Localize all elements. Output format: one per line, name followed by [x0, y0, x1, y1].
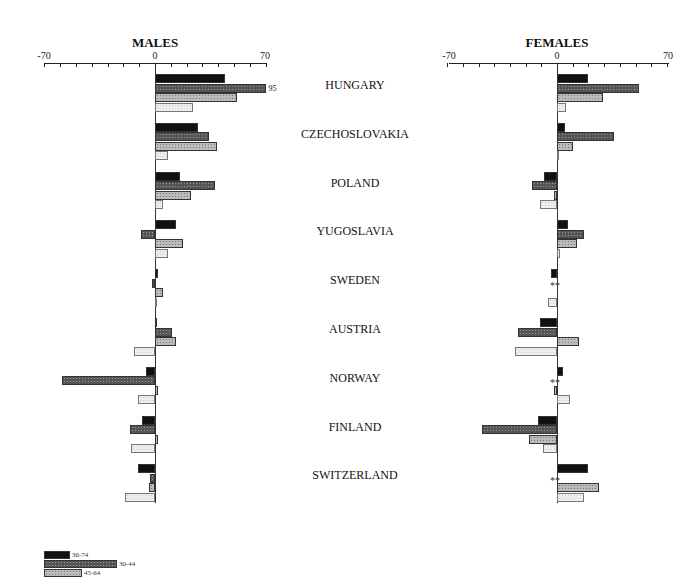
- males-bar-poland-65-74: [155, 200, 163, 209]
- males-bar-switzerland-30-74: [138, 464, 155, 473]
- males-bar-norway-30-44: [62, 376, 155, 385]
- males-bar-hungary-30-74: [155, 74, 225, 83]
- females-bar-hungary-30-44: [557, 84, 639, 93]
- country-label-hungary: HUNGARY: [325, 78, 384, 93]
- males-tick: [187, 63, 188, 67]
- males-bar-austria-65-74: [134, 347, 155, 356]
- females-tick: [667, 63, 668, 67]
- country-label-norway: NORWAY: [330, 371, 381, 386]
- males-tick: [123, 63, 124, 67]
- females-tick: [479, 63, 480, 67]
- females-bar-poland-30-74: [544, 172, 557, 181]
- females-bar-finland-30-44: [482, 425, 557, 434]
- females-tick: [636, 63, 637, 67]
- males-bar-switzerland-65-74: [125, 493, 155, 502]
- males-bar-yugoslavia-65-74: [155, 249, 168, 258]
- males-tick: [76, 63, 77, 67]
- males-bar-sweden-30-44: [152, 279, 155, 288]
- females-tick: [651, 63, 652, 67]
- males-bar-sweden-30-74: [155, 269, 158, 278]
- country-label-switzerland: SWITZERLAND: [312, 468, 397, 483]
- males-tick: [202, 63, 203, 67]
- females-bar-yugoslavia-30-44: [557, 230, 584, 239]
- males-bar-hungary-45-64: [155, 93, 237, 102]
- country-label-czechoslovakia: CZECHOSLOVAKIA: [301, 127, 409, 142]
- males-tick-max: 70: [260, 50, 270, 61]
- females-tick: [620, 63, 621, 67]
- females-bar-switzerland-65-74: [557, 493, 584, 502]
- males-tick-zero: 0: [153, 50, 158, 61]
- males-bar-switzerland-45-64: [149, 483, 155, 492]
- legend-swatch-45-64: [44, 569, 82, 577]
- males-bar-sweden-45-64: [155, 288, 163, 297]
- country-label-yugoslavia: YUGOSLAVIA: [316, 224, 393, 239]
- males-tick: [250, 63, 251, 67]
- legend-swatch-30-44: [44, 560, 117, 568]
- males-tick: [139, 63, 140, 67]
- males-bar-czechoslovakia-45-64: [155, 142, 217, 151]
- females-bar-austria-30-44: [518, 328, 557, 337]
- males-tick: [60, 63, 61, 67]
- males-tick: [155, 63, 156, 67]
- females-tick: [588, 63, 589, 67]
- males-bar-yugoslavia-30-44: [141, 230, 155, 239]
- females-tick-zero: 0: [555, 50, 560, 61]
- females-tick: [463, 63, 464, 67]
- females-bar-switzerland-30-74: [557, 464, 588, 473]
- males-bar-poland-30-44: [155, 181, 215, 190]
- mortality-change-chart: MALES FEMALES -70 0 70 -70 0 70 30-74 30…: [0, 0, 695, 579]
- males-title: MALES: [132, 35, 178, 51]
- females-bar-czechoslovakia-65-74: [557, 151, 559, 160]
- females-tick-min: -70: [442, 50, 455, 61]
- females-bar-czechoslovakia-45-64: [557, 142, 573, 151]
- females-title: FEMALES: [526, 35, 589, 51]
- females-bar-hungary-65-74: [557, 103, 566, 112]
- females-bar-czechoslovakia-30-74: [557, 123, 565, 132]
- females-tick: [510, 63, 511, 67]
- females-bar-yugoslavia-65-74: [557, 249, 560, 258]
- males-bar-hungary-30-44: [155, 84, 266, 93]
- females-bar-yugoslavia-45-64: [557, 239, 577, 248]
- males-bar-norway-65-74: [138, 395, 155, 404]
- country-label-sweden: SWEDEN: [330, 273, 380, 288]
- females-tick: [447, 63, 448, 67]
- females-bar-austria-30-74: [540, 318, 557, 327]
- females-tick: [526, 63, 527, 67]
- males-bar-finland-30-74: [142, 416, 155, 425]
- country-label-poland: POLAND: [331, 176, 380, 191]
- clipped-value-label: 95: [269, 84, 277, 93]
- females-bar-hungary-30-74: [557, 74, 588, 83]
- asterisk-annotation: **: [550, 475, 560, 486]
- legend-label-30-74: 30-74: [72, 551, 88, 559]
- females-tick: [557, 63, 558, 67]
- males-bar-czechoslovakia-30-44: [155, 132, 209, 141]
- males-bar-hungary-65-74: [155, 103, 193, 112]
- asterisk-annotation: **: [550, 280, 560, 291]
- females-bar-hungary-45-64: [557, 93, 603, 102]
- males-bar-austria-30-74: [155, 318, 157, 327]
- females-bar-norway-30-74: [557, 367, 563, 376]
- males-bar-czechoslovakia-30-74: [155, 123, 198, 132]
- females-bar-yugoslavia-30-74: [557, 220, 568, 229]
- females-tick-max: 70: [663, 50, 673, 61]
- legend-label-45-64: 45-64: [84, 569, 100, 577]
- country-label-finland: FINLAND: [329, 420, 382, 435]
- females-bar-norway-65-74: [557, 395, 570, 404]
- males-tick: [266, 63, 267, 67]
- males-bar-austria-45-64: [155, 337, 176, 346]
- females-bar-sweden-65-74: [548, 298, 557, 307]
- males-bar-yugoslavia-30-74: [155, 220, 176, 229]
- legend-swatch-30-74: [44, 551, 70, 559]
- females-tick: [604, 63, 605, 67]
- males-bar-austria-30-44: [155, 328, 172, 337]
- males-bar-norway-45-64: [155, 386, 158, 395]
- males-bar-czechoslovakia-65-74: [155, 151, 168, 160]
- females-bar-poland-45-64: [554, 191, 557, 200]
- males-tick-min: -70: [37, 50, 50, 61]
- females-tick: [541, 63, 542, 67]
- males-bar-finland-65-74: [131, 444, 155, 453]
- country-label-austria: AUSTRIA: [329, 322, 381, 337]
- males-tick: [108, 63, 109, 67]
- females-bar-poland-30-44: [532, 181, 557, 190]
- females-tick: [573, 63, 574, 67]
